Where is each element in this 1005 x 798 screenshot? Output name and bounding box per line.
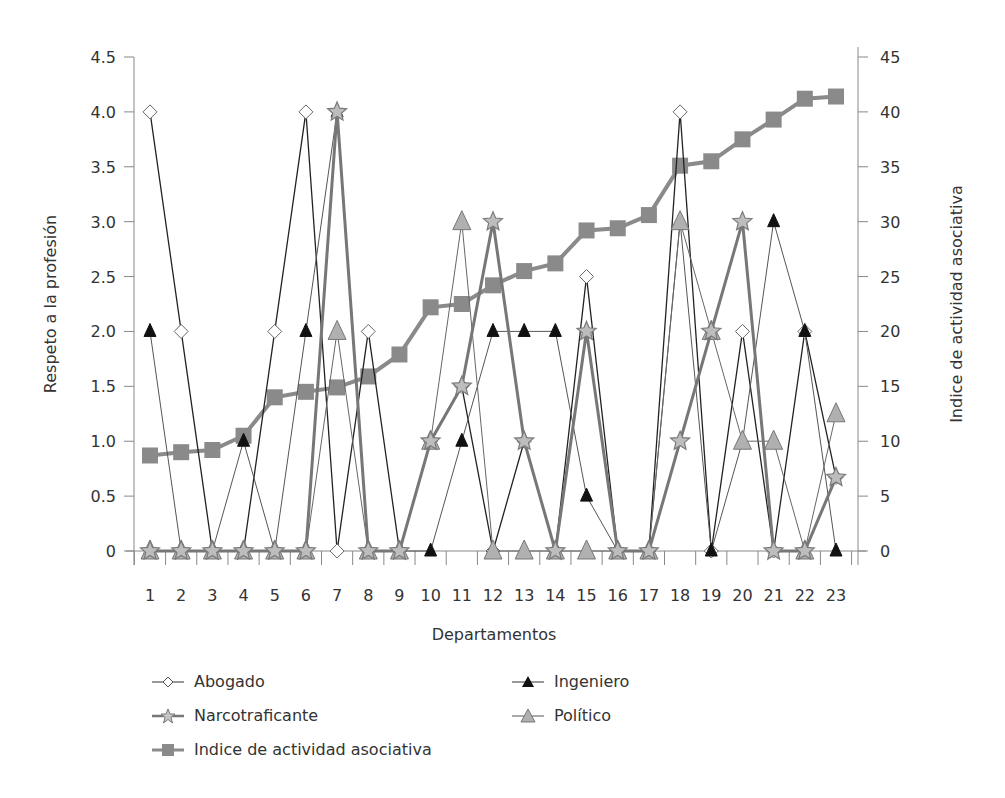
x-tick-label: 8 [363, 586, 373, 605]
legend-label: Ingeniero [554, 672, 629, 691]
legend-label: Abogado [194, 672, 265, 691]
x-tick-label: 9 [394, 586, 404, 605]
legend-item-narcotraficante: Narcotraficante [150, 706, 318, 725]
y-tick-label: 0.5 [91, 487, 116, 506]
x-tick-label: 6 [301, 586, 311, 605]
y-axis-title: Respeto a la profesión [41, 215, 60, 393]
legend-label: Político [554, 706, 611, 725]
x-tick-label: 16 [608, 586, 628, 605]
x-tick-label: 2 [176, 586, 186, 605]
y2-tick-label: 20 [880, 322, 900, 341]
y-tick-label: 2.5 [91, 268, 116, 287]
x-tick-label: 5 [270, 586, 280, 605]
y-tick-label: 3.5 [91, 158, 116, 177]
legend-item-politico: Político [510, 706, 611, 725]
series-layer [141, 89, 846, 560]
filled-triangle-marker-icon [510, 674, 546, 690]
legend-item-ingeniero: Ingeniero [510, 672, 629, 691]
legend-item-abogado: Abogado [150, 672, 265, 691]
x-tick-label: 15 [576, 586, 596, 605]
legend-label: Indice de actividad asociativa [194, 740, 432, 759]
x-tick-label: 10 [420, 586, 440, 605]
x-tick-label: 22 [795, 586, 815, 605]
y2-tick-label: 30 [880, 213, 900, 232]
x-tick-label: 19 [701, 586, 721, 605]
y2-axis-title: Indice de actividad asociativa [947, 185, 966, 423]
diamond-marker-icon [150, 674, 186, 690]
x-axis-title: Departamentos [432, 625, 557, 644]
series-pol-tico [141, 211, 845, 559]
y-tick-label: 1.5 [91, 377, 116, 396]
x-tick-label: 21 [763, 586, 783, 605]
x-tick-label: 1 [145, 586, 155, 605]
y2-tick-label: 35 [880, 158, 900, 177]
axes: 00.51.01.52.02.53.03.54.04.5051015202530… [91, 47, 901, 605]
x-tick-label: 14 [545, 586, 565, 605]
y2-tick-label: 5 [880, 487, 890, 506]
square-marker-icon [150, 742, 186, 758]
y2-tick-label: 15 [880, 377, 900, 396]
y2-tick-label: 45 [880, 48, 900, 67]
x-tick-label: 13 [514, 586, 534, 605]
y-tick-label: 4.5 [91, 48, 116, 67]
x-tick-label: 23 [826, 586, 846, 605]
x-tick-label: 3 [207, 586, 217, 605]
y2-tick-label: 25 [880, 268, 900, 287]
series-indice-de-actividad-asociativa [142, 89, 844, 464]
y2-tick-label: 40 [880, 103, 900, 122]
x-tick-label: 12 [483, 586, 503, 605]
x-tick-label: 7 [332, 586, 342, 605]
x-tick-label: 18 [670, 586, 690, 605]
legend-label: Narcotraficante [194, 706, 318, 725]
legend: Abogado Narcotraficante Indice de activi… [150, 672, 750, 782]
y-tick-label: 1.0 [91, 432, 116, 451]
x-tick-label: 20 [732, 586, 752, 605]
y-tick-label: 0 [106, 542, 116, 561]
gray-triangle-marker-icon [510, 708, 546, 724]
x-tick-label: 4 [238, 586, 248, 605]
legend-item-indice: Indice de actividad asociativa [150, 740, 432, 759]
x-tick-label: 17 [639, 586, 659, 605]
y-tick-label: 2.0 [91, 322, 116, 341]
x-tick-label: 11 [452, 586, 472, 605]
y-tick-label: 3.0 [91, 213, 116, 232]
star-marker-icon [150, 708, 186, 724]
y2-tick-label: 10 [880, 432, 900, 451]
y2-tick-label: 0 [880, 542, 890, 561]
y-tick-label: 4.0 [91, 103, 116, 122]
